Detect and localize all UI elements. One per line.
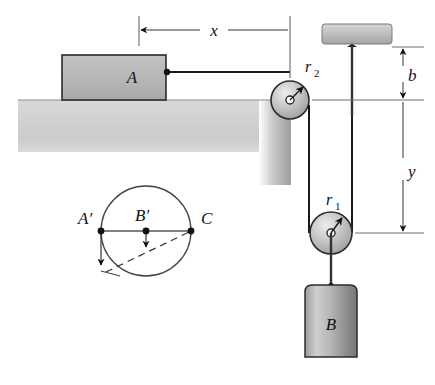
ceiling-support-group — [322, 24, 392, 116]
point-b-prime-label: B′ — [135, 206, 149, 225]
dim-x-label: x — [209, 21, 218, 40]
pulley-r1-label: r — [326, 191, 333, 208]
ceiling-bracket — [322, 24, 392, 44]
figure-canvas: A r 2 r — [0, 0, 435, 385]
dimension-y: y — [403, 102, 416, 231]
dim-y-label: y — [406, 162, 416, 181]
block-b-label: B — [326, 315, 337, 334]
point-b-prime — [143, 228, 150, 235]
cord-anchor-a — [164, 69, 170, 75]
pulley-r2-label-subscript: 2 — [314, 67, 320, 79]
pulley-r2-group: r 2 — [271, 58, 320, 119]
ledge-structure — [18, 100, 291, 185]
pulley-r2-label: r — [305, 58, 312, 75]
point-c-label: C — [201, 209, 213, 228]
ledge-body — [18, 100, 291, 185]
point-a-prime-label: A′ — [77, 209, 92, 228]
velocity-circle-diagram: A′ B′ C — [77, 186, 213, 276]
cord-a-to-pulley — [164, 69, 290, 75]
dim-b-label: b — [408, 66, 417, 85]
diagram-dashed-chord — [106, 231, 191, 272]
arrow-tip-connector — [101, 271, 120, 276]
dimension-b: b — [403, 49, 417, 98]
block-a — [62, 55, 166, 100]
block-a-label: A — [126, 68, 138, 87]
block-b-group: B — [305, 233, 357, 357]
pulley-r1-label-subscript: 1 — [335, 200, 341, 212]
point-c — [188, 228, 195, 235]
pulley-figure: A r 2 r — [0, 0, 435, 385]
block-a-group: A — [62, 55, 166, 100]
point-a-prime — [98, 228, 105, 235]
